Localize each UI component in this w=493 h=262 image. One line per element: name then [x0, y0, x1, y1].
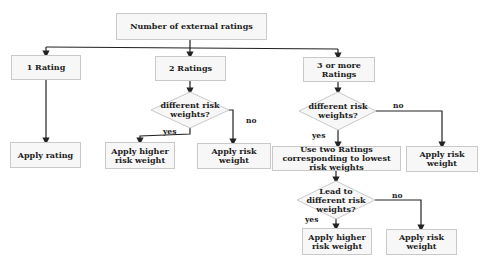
- sub-decision-text: Lead to different risk weights?: [306, 184, 366, 216]
- root-node: Number of external ratings: [116, 13, 267, 40]
- edge-label-yes: yes: [305, 216, 318, 224]
- edge-label-no: no: [392, 192, 402, 200]
- edge-label-yes: yes: [312, 132, 325, 140]
- node-2-ratings: 2 Ratings: [155, 56, 226, 81]
- result-2-yes: Apply higher risk weight: [105, 142, 175, 169]
- flowchart-canvas: Number of external ratings 1 Rating 2 Ra…: [0, 0, 493, 262]
- decision-3-text: different risk weights?: [308, 97, 368, 125]
- result-3-no: Apply risk weight: [406, 146, 478, 172]
- decision-2-text: different risk weights?: [160, 96, 220, 124]
- result-2-no: Apply risk weight: [197, 143, 271, 169]
- result-3-yes: Use two Ratings corresponding to lowest …: [272, 146, 401, 171]
- edge-label-no: no: [246, 117, 256, 125]
- result-sub-no: Apply risk weight: [386, 229, 457, 255]
- node-1-rating: 1 Rating: [11, 55, 81, 80]
- edge-label-yes: yes: [163, 128, 176, 136]
- result-sub-yes: Apply higher risk weight: [302, 228, 372, 255]
- result-apply-rating: Apply rating: [10, 142, 81, 168]
- node-3-or-more-ratings: 3 or more Ratings: [303, 57, 375, 82]
- edge-label-no: no: [393, 102, 403, 110]
